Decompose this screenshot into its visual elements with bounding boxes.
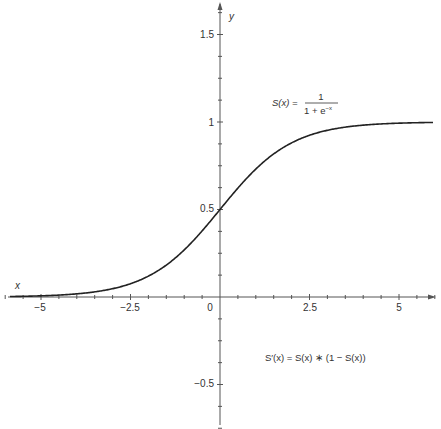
y-tick-label-neg0.5: −0.5 [194, 378, 214, 389]
formula-lhs: S(x) = [272, 97, 298, 108]
x-axis-label: x [14, 280, 21, 291]
y-axis: y 1.5 1 0.5 −0.5 [194, 0, 235, 428]
sigmoid-chart: y 1.5 1 0.5 −0.5 x −5 −2.5 0 2.5 5 S(x) … [0, 0, 441, 429]
y-tick-label-0.5: 0.5 [200, 203, 214, 214]
x-tick-label-neg2.5: −2.5 [120, 302, 140, 313]
y-tick-label-1.5: 1.5 [200, 29, 214, 40]
sigmoid-formula: S(x) = 1 1 + e−x [272, 91, 338, 116]
x-tick-label-neg5: −5 [34, 302, 46, 313]
formula-denominator: 1 + e−x [304, 105, 332, 116]
x-axis: x −5 −2.5 0 2.5 5 [5, 280, 436, 313]
y-tick-label-1: 1 [208, 117, 214, 128]
derivative-formula: S′(x) = S(x) ∗ (1 − S(x)) [265, 352, 366, 363]
x-tick-label-2.5: 2.5 [303, 302, 317, 313]
x-tick-label-0: 0 [207, 302, 213, 313]
y-axis-label: y [228, 11, 235, 22]
formula-numerator: 1 [318, 91, 323, 102]
x-tick-label-5: 5 [396, 302, 402, 313]
y-axis-arrow-icon [218, 2, 223, 10]
